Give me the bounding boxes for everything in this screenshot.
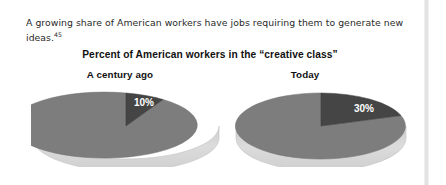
pie-right-value-label: 30% <box>354 103 374 114</box>
caption-paragraph: A growing share of American workers have… <box>26 16 408 44</box>
pie-left-svg: 10% <box>31 85 221 167</box>
caption-body: A growing share of American workers have… <box>26 17 403 42</box>
pie-left-slice-other <box>31 92 197 158</box>
figure-creative-class: Percent of American workers in the “crea… <box>0 44 446 185</box>
page-margin-rule <box>424 0 429 185</box>
figure-title: Percent of American workers in the “crea… <box>0 49 420 60</box>
pie-left-value-label: 10% <box>134 97 154 108</box>
pie-right-svg: 30% <box>234 85 408 167</box>
panel-label-today: Today <box>245 69 365 80</box>
pie-chart-today: 30% <box>234 85 408 167</box>
pie-chart-a-century-ago: 10% <box>31 85 221 167</box>
footnote-marker: 45 <box>54 30 62 37</box>
panel-label-a-century-ago: A century ago <box>40 69 200 80</box>
